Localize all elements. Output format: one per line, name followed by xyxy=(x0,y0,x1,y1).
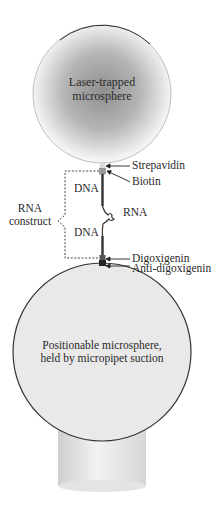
top-sphere-label-line2: microsphere xyxy=(52,90,152,104)
dna-upper-label: DNA xyxy=(74,182,99,195)
digoxigenin-marker xyxy=(100,255,106,260)
rna-strand xyxy=(102,206,114,236)
biotin-marker xyxy=(100,168,106,174)
anti-digoxigenin-marker xyxy=(99,260,106,266)
top-sphere-label: Laser-trapped microsphere xyxy=(52,76,152,104)
rna-construct-label: RNA construct xyxy=(4,202,56,228)
rna-label: RNA xyxy=(123,206,147,219)
strepavidin-marker xyxy=(100,163,105,167)
bottom-sphere-label: Positionable microsphere, held by microp… xyxy=(22,339,182,365)
bottom-sphere-label-line2: held by micropipet suction xyxy=(22,352,182,365)
biotin-label: Biotin xyxy=(132,175,161,188)
rna-construct-label-line1: RNA xyxy=(4,202,56,215)
dna-lower-label: DNA xyxy=(74,226,99,239)
bottom-sphere-label-line1: Positionable microsphere, xyxy=(22,339,182,352)
rna-construct-label-line2: construct xyxy=(4,215,56,228)
anti-digoxigenin-label: Anti-digoxigenin xyxy=(132,262,211,275)
top-sphere-label-line1: Laser-trapped xyxy=(52,76,152,90)
strepavidin-label: Strepavidin xyxy=(132,159,185,172)
